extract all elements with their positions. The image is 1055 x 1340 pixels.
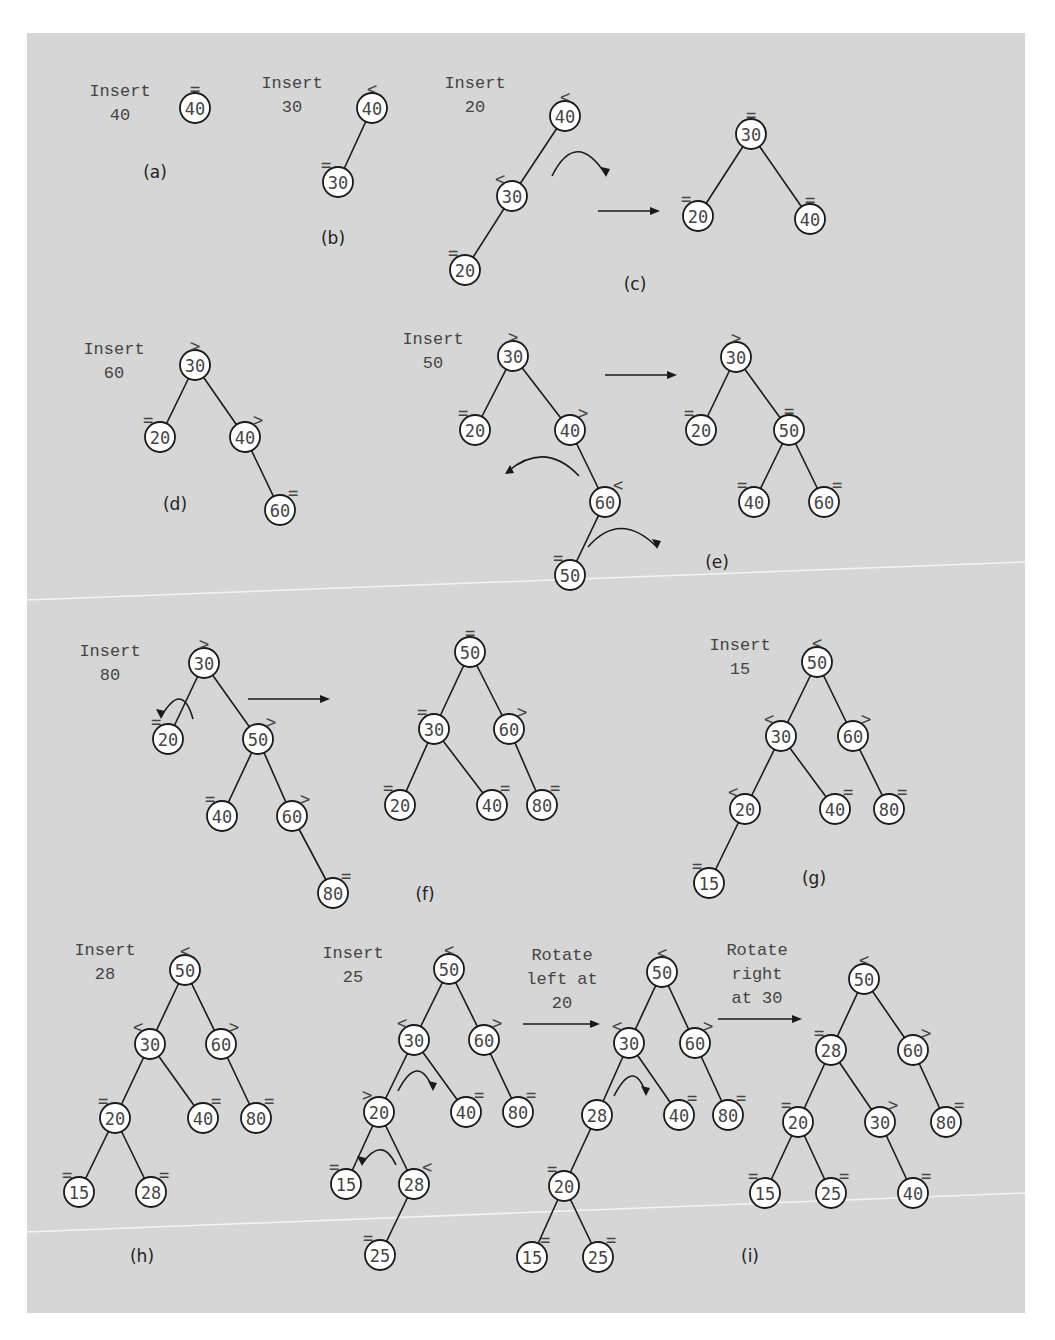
balance-factor: = (143, 410, 153, 430)
tree-node: 50< (849, 950, 879, 994)
tree: 50<30<60>20>40=80=15=28<25= (329, 940, 536, 1270)
node-value: 50 (460, 643, 480, 663)
balance-factor: > (703, 1016, 713, 1036)
node-value: 20 (691, 421, 711, 441)
node-value: 50 (439, 960, 459, 980)
tree: 30>20=50=40=60= (684, 328, 842, 517)
tree-node: 40> (555, 403, 588, 445)
balance-factor: = (526, 1085, 536, 1105)
tree-node: 50= (774, 401, 804, 445)
transition-arrow-icon (605, 371, 677, 379)
node-value: 60 (211, 1035, 231, 1055)
arrowhead-icon (428, 1081, 437, 1091)
node-value: 20 (390, 796, 410, 816)
balance-factor: = (474, 1085, 484, 1105)
balance-factor: > (508, 327, 518, 347)
tree: 50<30<60>20<40=80=15= (692, 633, 907, 898)
panel-c: Insert20(c)40<30<20=30=20=40= (444, 74, 825, 294)
node-value: 60 (270, 501, 290, 521)
node-value: 15 (336, 1175, 356, 1195)
arrowhead-icon (650, 207, 660, 215)
tree-node: 50= (455, 623, 485, 667)
panel-a: Insert40(a)40= (89, 79, 210, 182)
panel-i: Insert25Rotateleft at20Rotaterightat 30(… (322, 940, 964, 1272)
node-value: 40 (560, 421, 580, 441)
panel-b: Insert30(b)40<30= (261, 74, 387, 248)
node-value: 20 (105, 1109, 125, 1129)
avl-insertion-diagram: Insert40(a)40=Insert30(b)40<30=Insert20(… (0, 0, 1055, 1340)
node-value: 30 (140, 1035, 160, 1055)
node-value: 20 (688, 207, 708, 227)
balance-factor: > (199, 634, 209, 654)
node-value: 20 (788, 1113, 808, 1133)
node-value: 40 (825, 800, 845, 820)
node-value: 40 (903, 1184, 923, 1204)
balance-factor: > (300, 789, 310, 809)
balance-factor: = (540, 1230, 550, 1250)
panel-d: Insert60(d)30>20=40>60= (83, 336, 298, 525)
node-value: 60 (814, 493, 834, 513)
insert-label: Insert15 (709, 636, 770, 679)
tree: 50<30<60>20=40=80=15=28= (62, 941, 274, 1207)
balance-factor: < (560, 87, 570, 107)
panel-h: Insert28(h)50<30<60>20=40=80=15=28= (62, 941, 274, 1266)
arrowhead-icon (320, 695, 330, 703)
balance-factor: < (180, 941, 190, 961)
rotation-arrow-icon (357, 1150, 396, 1166)
tree-node: 40> (230, 410, 263, 452)
node-value: 30 (619, 1034, 639, 1054)
tree-node: 40< (550, 87, 580, 131)
node-value: 80 (879, 800, 899, 820)
node-value: 50 (560, 566, 580, 586)
node-value: 40 (185, 99, 205, 119)
node-value: 80 (532, 796, 552, 816)
balance-factor: = (205, 789, 215, 809)
tree: 30>20=50>40=60>80= (151, 634, 351, 908)
node-value: 25 (821, 1184, 841, 1204)
balance-factor: = (458, 403, 468, 423)
node-value: 28 (404, 1175, 424, 1195)
insert-label: Insert30 (261, 74, 322, 117)
tree-node: 40< (357, 79, 387, 123)
panel-f: Insert80(f)30>20=50>40=60>80=50=30=60>20… (79, 623, 560, 908)
balance-factor: = (417, 702, 427, 722)
node-value: 60 (282, 807, 302, 827)
balance-factor: = (921, 1166, 931, 1186)
tree-node: 40= (664, 1088, 697, 1130)
arrowhead-icon (590, 1020, 600, 1028)
balance-factor: = (363, 1228, 373, 1248)
tree-node: 28 (582, 1100, 612, 1130)
balance-factor: = (465, 623, 475, 643)
node-value: 60 (474, 1031, 494, 1051)
tree-node: 20= (448, 243, 480, 285)
node-value: 15 (69, 1183, 89, 1203)
balance-factor: = (748, 1166, 758, 1186)
insert-label: Insert60 (83, 340, 144, 383)
tree-node: 60> (277, 789, 310, 831)
transition-arrow-icon (523, 1020, 600, 1028)
balance-factor: = (606, 1230, 616, 1250)
transition-arrow-icon (718, 1015, 802, 1023)
balance-factor: < (367, 79, 377, 99)
arrowhead-icon (792, 1015, 802, 1023)
panel-caption: (d) (163, 494, 187, 514)
balance-factor: = (383, 778, 393, 798)
balance-factor: = (288, 483, 298, 503)
node-value: 30 (502, 187, 522, 207)
balance-factor: = (692, 856, 702, 876)
insert-label: Insert50 (402, 330, 463, 373)
panel-caption: (b) (321, 228, 345, 248)
balance-factor: = (264, 1091, 274, 1111)
balance-factor: = (500, 778, 510, 798)
balance-factor: < (764, 709, 774, 729)
node-value: 80 (936, 1113, 956, 1133)
tree-node: 50< (434, 940, 464, 984)
node-value: 50 (652, 963, 672, 983)
balance-factor: = (547, 1159, 557, 1179)
node-value: 15 (699, 874, 719, 894)
node-value: 20 (150, 428, 170, 448)
balance-factor: < (422, 1157, 432, 1177)
tree-node: 30= (736, 105, 766, 149)
panel-caption: (f) (415, 884, 434, 904)
tree-node: 80= (318, 866, 351, 908)
